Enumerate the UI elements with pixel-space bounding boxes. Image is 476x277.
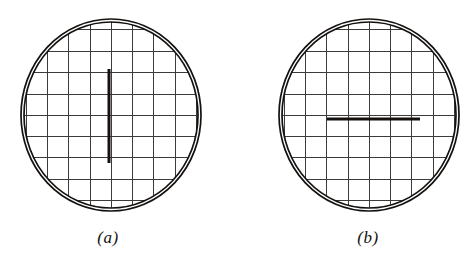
panel-b-caption: (b) [338,228,398,248]
panel-a-caption: (a) [78,228,138,248]
figure-svg [0,0,476,277]
figure-container: (a) (b) [0,0,476,277]
figure-background [0,0,476,277]
